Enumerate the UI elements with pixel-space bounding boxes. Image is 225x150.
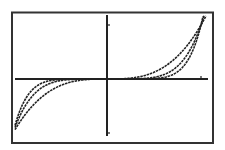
plot-frame xyxy=(12,13,213,144)
graph-screen xyxy=(0,0,225,150)
